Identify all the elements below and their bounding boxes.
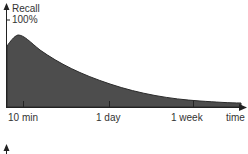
y-max-label: 100% <box>12 15 38 25</box>
next-chart-arrow-icon <box>4 144 10 151</box>
x-tick-label-1day: 1 day <box>96 113 120 123</box>
x-tick-label-1week: 1 week <box>171 113 203 123</box>
x-axis-label: time <box>226 113 245 123</box>
y-axis-label: Recall <box>12 4 40 14</box>
y-axis-arrow-icon <box>4 3 10 10</box>
x-axis-arrow-icon <box>239 104 247 111</box>
recall-area <box>7 35 241 107</box>
x-tick-label-10min: 10 min <box>8 113 38 123</box>
